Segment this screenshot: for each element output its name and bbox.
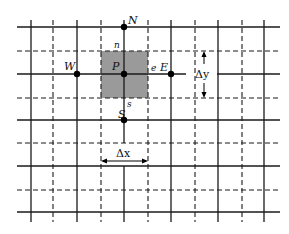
label-node-p: P [111, 60, 120, 73]
dashed-vertical-lines [53, 20, 242, 222]
label-face-n: n [114, 40, 120, 50]
label-face-s: s [127, 99, 132, 109]
finite-volume-grid: N P W E S n e s Δy Δx [0, 0, 289, 234]
label-dy: Δy [195, 68, 210, 81]
label-node-w: W [64, 60, 77, 73]
node-e-dot [168, 71, 174, 77]
node-p-dot [121, 71, 127, 77]
label-face-e: e [151, 63, 156, 73]
label-node-e: E [159, 61, 168, 74]
label-node-n: N [127, 14, 138, 27]
node-n-dot [121, 24, 127, 30]
label-dx: Δx [116, 147, 131, 160]
label-node-s: S [118, 108, 126, 121]
